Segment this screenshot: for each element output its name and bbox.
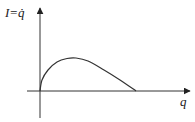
y-axis-label: I=q̇ [4, 5, 25, 20]
curve-i-vs-q [40, 58, 136, 91]
phase-diagram: I=q̇ q [0, 0, 195, 122]
x-axis-label: q [180, 94, 187, 109]
